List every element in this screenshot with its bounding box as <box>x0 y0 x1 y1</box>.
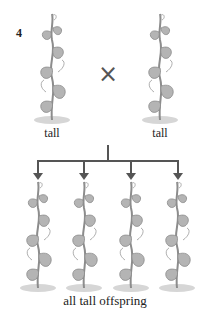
connector-drop-4 <box>177 160 179 173</box>
connector-drop-3 <box>130 160 132 173</box>
offspring-plant-4 <box>157 180 197 296</box>
arrow-down-icon <box>33 173 43 180</box>
connector-trunk <box>107 145 109 161</box>
parent-right-label: tall <box>135 126 185 141</box>
arrow-down-icon <box>79 173 89 180</box>
tall-plant-icon <box>140 12 180 124</box>
parent-left-label: tall <box>27 126 77 141</box>
tall-plant-icon <box>157 180 197 292</box>
arrow-down-icon <box>126 173 136 180</box>
connector-drop-2 <box>83 160 85 173</box>
offspring-plant-2 <box>64 180 104 296</box>
parent-plant-right <box>140 12 180 128</box>
tall-plant-icon <box>18 180 58 292</box>
arrow-down-icon <box>173 173 183 180</box>
tall-plant-icon <box>64 180 104 292</box>
offspring-plant-3 <box>111 180 151 296</box>
parent-plant-left <box>32 12 72 128</box>
tall-plant-icon <box>111 180 151 292</box>
connector-drop-1 <box>37 160 39 173</box>
connector-bar <box>37 160 179 162</box>
offspring-plant-1 <box>18 180 58 296</box>
offspring-caption: all tall offspring <box>40 293 170 309</box>
cross-symbol: × <box>98 62 118 86</box>
figure-number: 4 <box>16 26 22 41</box>
tall-plant-icon <box>32 12 72 124</box>
